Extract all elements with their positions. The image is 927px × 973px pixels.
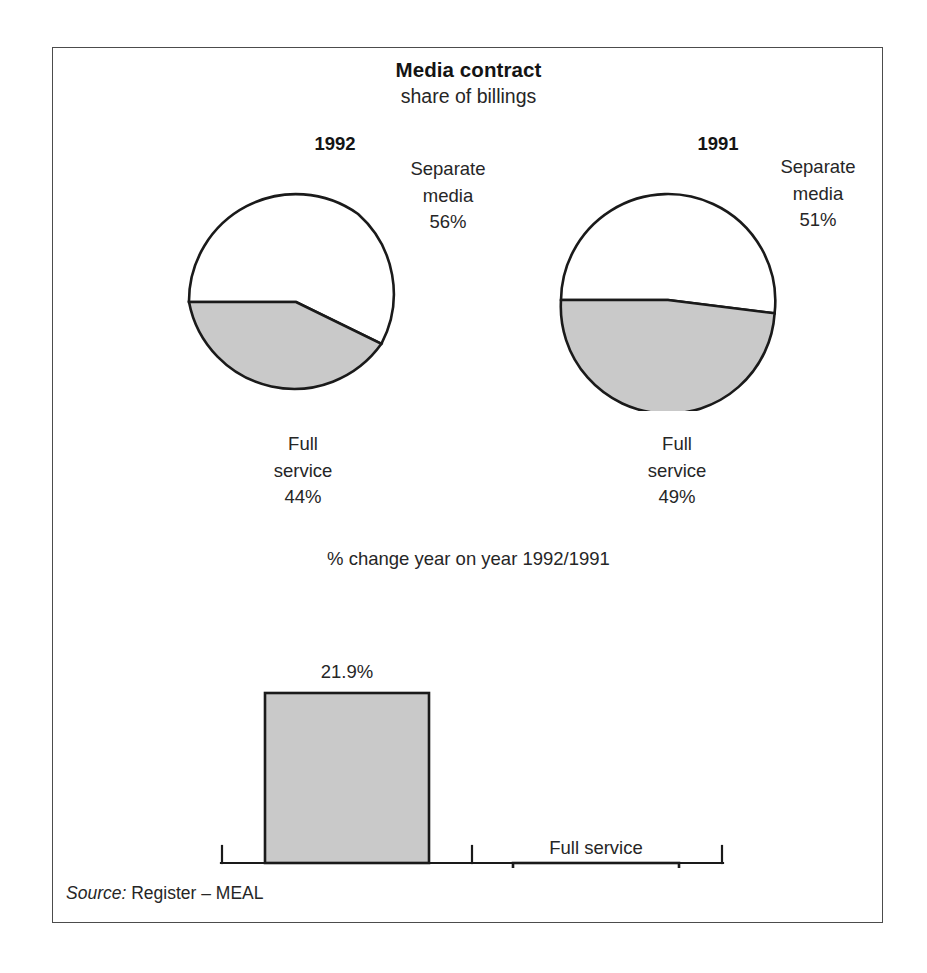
- pie-slice-full-service-1991: [561, 300, 775, 411]
- pie-year-label-1992: 1992: [275, 133, 395, 155]
- pie-label-full-service-1992-line1: Full: [203, 431, 403, 458]
- pie-label-separate-media-1992-line2: media: [373, 183, 523, 210]
- pie-label-separate-media-1991-line1: Separate: [743, 154, 893, 181]
- pie-value-full-service-1992: 44%: [203, 484, 403, 511]
- pie-value-separate-media-1991: 51%: [743, 207, 893, 234]
- pie-label-full-service-1991-line2: service: [577, 458, 777, 485]
- pie-label-separate-media-1991: Separate media 51%: [743, 154, 893, 234]
- figure-root: Media contract share of billings 1992 19…: [0, 0, 927, 973]
- chart-title: Media contract: [53, 57, 884, 83]
- pie-label-full-service-1991-line1: Full: [577, 431, 777, 458]
- pie-label-separate-media-1992-line1: Separate: [373, 156, 523, 183]
- pie-label-full-service-1991: Full service 49%: [577, 431, 777, 511]
- chart-subtitle: share of billings: [53, 83, 884, 109]
- bar-value-separate-media: 21.9%: [321, 661, 373, 682]
- pie-value-separate-media-1992: 56%: [373, 209, 523, 236]
- pie-value-full-service-1991: 49%: [577, 484, 777, 511]
- bar-chart: 21.9% Separate media Full service –4.0%: [53, 588, 884, 868]
- pie-label-full-service-1992-line2: service: [203, 458, 403, 485]
- chart-frame: Media contract share of billings 1992 19…: [52, 47, 883, 923]
- source-value: Register – MEAL: [131, 883, 263, 903]
- bar-chart-caption: % change year on year 1992/1991: [53, 548, 884, 570]
- title-block: Media contract share of billings: [53, 57, 884, 109]
- pie-label-separate-media-1992: Separate media 56%: [373, 156, 523, 236]
- pie-label-full-service-1992: Full service 44%: [203, 431, 403, 511]
- pie-year-label-1991: 1991: [658, 133, 778, 155]
- bar-separate-media: [265, 693, 429, 863]
- source-note: Source: Register – MEAL: [66, 883, 263, 904]
- source-label: Source:: [66, 883, 126, 903]
- pie-label-separate-media-1991-line2: media: [743, 181, 893, 208]
- bar-category-full-service: Full service: [549, 837, 643, 858]
